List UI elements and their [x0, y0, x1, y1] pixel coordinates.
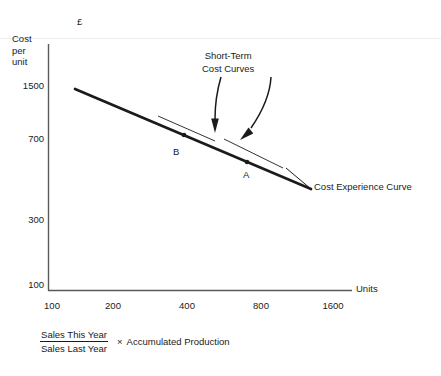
annotation-short-term-line1: Short-Term	[205, 50, 252, 61]
y-tick-label-300: 300	[8, 214, 44, 225]
annotation-arrowhead-b	[211, 119, 219, 134]
x-tick-label-100: 100	[32, 300, 72, 311]
cost-experience-curve-figure: Costperunit £ 1500 700 300 100 100 200 4…	[0, 0, 441, 376]
x-axis-title: Units	[356, 283, 378, 294]
x-tick-label-200: 200	[93, 300, 133, 311]
fraction-denominator: Sales Last Year	[40, 342, 108, 354]
annotation-cost-experience-curve: Cost Experience Curve	[314, 181, 412, 192]
point-label-b: B	[173, 146, 179, 157]
x-tick-label-400: 400	[167, 300, 207, 311]
footnote-formula: Sales This Year Sales Last Year × Accumu…	[40, 329, 230, 354]
y-axis-title-line2: per	[12, 45, 26, 56]
y-axis-title-line3: unit	[12, 56, 27, 67]
sales-ratio-fraction: Sales This Year Sales Last Year	[40, 329, 108, 354]
annotation-arrow-to-a	[251, 77, 271, 128]
cost-experience-curve-line	[75, 89, 311, 189]
currency-symbol: £	[77, 16, 82, 27]
accumulated-production-label: Accumulated Production	[127, 336, 230, 347]
data-point-b	[182, 133, 187, 138]
annotation-arrowhead-a	[240, 128, 253, 140]
annotation-short-term-line2: Cost Curves	[202, 63, 254, 74]
x-tick-label-1600: 1600	[313, 300, 353, 311]
data-point-a	[245, 160, 250, 165]
y-axis-title: Costperunit	[12, 33, 32, 68]
y-tick-label-700: 700	[8, 133, 44, 144]
cost-experience-curve-leader	[286, 168, 311, 189]
y-tick-label-1500: 1500	[8, 80, 44, 91]
fraction-numerator: Sales This Year	[40, 329, 108, 342]
y-tick-label-100: 100	[8, 279, 44, 290]
annotation-arrow-to-b	[215, 77, 221, 119]
annotation-short-term-cost-curves: Short-TermCost Curves	[202, 50, 254, 75]
y-axis-title-line1: Cost	[12, 33, 32, 44]
x-tick-label-800: 800	[241, 300, 281, 311]
multiplication-symbol: ×	[117, 336, 123, 347]
point-label-a: A	[243, 169, 249, 180]
